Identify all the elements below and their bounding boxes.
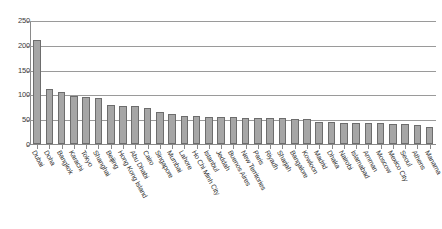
bar (401, 124, 409, 144)
bar-slot (92, 21, 104, 144)
bar (82, 97, 90, 144)
x-label-slot: Dhaka (325, 149, 337, 229)
bar (303, 119, 311, 144)
bar-slot (105, 21, 117, 144)
x-label-slot: Paris (252, 149, 264, 229)
x-label-slot: Manama (424, 149, 436, 229)
bar (426, 127, 434, 144)
x-label-slot: Jeddah (215, 149, 227, 229)
bar-series (31, 21, 436, 144)
x-label-slot: Cairo (141, 149, 153, 229)
bar-slot (411, 21, 423, 144)
bar (156, 112, 164, 144)
bar (414, 125, 422, 144)
y-tick-mark (27, 145, 30, 146)
bar (70, 96, 78, 144)
bar-slot (374, 21, 386, 144)
x-axis-label: Manama (424, 149, 442, 175)
bar-slot (301, 21, 313, 144)
bar (205, 117, 213, 144)
bar-slot (325, 21, 337, 144)
bar-slot (56, 21, 68, 144)
bar-slot (154, 21, 166, 144)
bar (291, 119, 299, 144)
bar (266, 118, 274, 144)
bar (328, 122, 336, 144)
bar (254, 118, 262, 144)
bar-slot (68, 21, 80, 144)
x-label-slot: Tokyo (80, 149, 92, 229)
bar-slot (215, 21, 227, 144)
bar (46, 89, 54, 144)
bar-slot (264, 21, 276, 144)
x-label-slot: Beijing (105, 149, 117, 229)
bar (58, 92, 66, 144)
x-label-slot: Istanbul (203, 149, 215, 229)
bar (352, 123, 360, 144)
bar (33, 40, 41, 144)
bar-slot (387, 21, 399, 144)
x-label-slot: Mexico City (387, 149, 399, 229)
bar-chart: 050100150200250 DubaiDohaBangkokKarachiT… (0, 0, 442, 229)
x-label-slot: Athens (411, 149, 423, 229)
x-label-slot: Mumbai (166, 149, 178, 229)
x-label-slot: Bangalore (289, 149, 301, 229)
bar-slot (227, 21, 239, 144)
x-axis-labels: DubaiDohaBangkokKarachiTokyoShanghaiBeij… (31, 149, 436, 229)
x-label-slot: Shanghai (92, 149, 104, 229)
bar-slot (252, 21, 264, 144)
bar-slot (129, 21, 141, 144)
bar (119, 106, 127, 144)
x-label-slot: Hong Kong Island (117, 149, 129, 229)
bar-slot (350, 21, 362, 144)
bar-slot (43, 21, 55, 144)
bar (181, 116, 189, 144)
bar (340, 123, 348, 144)
bar (279, 118, 287, 144)
bar (377, 123, 385, 144)
bar-slot (289, 21, 301, 144)
x-label-slot: Bangkok (56, 149, 68, 229)
x-label-slot: Dubai (31, 149, 43, 229)
x-label-slot: Sharjah (276, 149, 288, 229)
bar (217, 117, 225, 144)
bar (242, 118, 250, 144)
bar (131, 106, 139, 144)
bar (193, 116, 201, 144)
x-label-slot: Singapore (154, 149, 166, 229)
bar (365, 123, 373, 144)
bar-slot (240, 21, 252, 144)
bar-slot (166, 21, 178, 144)
bar-slot (338, 21, 350, 144)
plot-area (30, 21, 436, 145)
bar (107, 105, 115, 144)
bar-slot (80, 21, 92, 144)
x-label-slot: Islamabad (350, 149, 362, 229)
bar-slot (190, 21, 202, 144)
bar-slot (424, 21, 436, 144)
bar (168, 114, 176, 144)
x-label-slot: Kowloon (301, 149, 313, 229)
x-label-slot: Madrid (313, 149, 325, 229)
bar (230, 117, 238, 144)
bar-slot (117, 21, 129, 144)
bar-slot (276, 21, 288, 144)
bar (144, 108, 152, 144)
x-label-slot: New Territories (240, 149, 252, 229)
bar-slot (31, 21, 43, 144)
bar (95, 98, 103, 144)
x-label-slot: Doha (43, 149, 55, 229)
bar-slot (178, 21, 190, 144)
bar (389, 124, 397, 144)
bar (315, 122, 323, 144)
x-label-slot: Buenos Aires (227, 149, 239, 229)
x-label-slot: Nairobi (338, 149, 350, 229)
x-label-slot: Lahore (178, 149, 190, 229)
bar-slot (313, 21, 325, 144)
bar-slot (362, 21, 374, 144)
x-label-slot: Karachi (68, 149, 80, 229)
x-label-slot: Abu Dhabi (129, 149, 141, 229)
bar-slot (399, 21, 411, 144)
bar-slot (203, 21, 215, 144)
bar-slot (141, 21, 153, 144)
